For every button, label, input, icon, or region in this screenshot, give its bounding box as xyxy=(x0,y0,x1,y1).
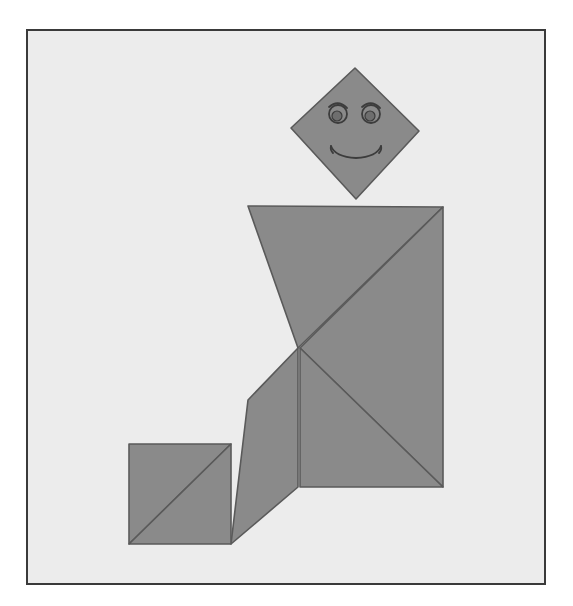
left-pupil xyxy=(332,111,342,121)
artwork-canvas xyxy=(0,0,573,606)
right-pupil xyxy=(365,111,375,121)
tangram-figure-svg xyxy=(0,0,573,606)
